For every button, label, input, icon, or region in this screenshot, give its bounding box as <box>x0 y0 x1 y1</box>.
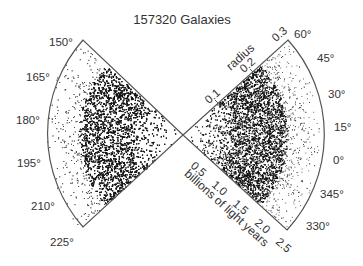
angle-30: 30° <box>328 88 345 100</box>
angle-0: 0° <box>333 154 344 166</box>
angle-210: 210° <box>31 200 55 212</box>
distance-axis: 0.5 1.0 1.5 2.0 2.5 billions of light ye… <box>182 159 294 255</box>
angle-165: 165° <box>26 71 50 83</box>
angle-330: 330° <box>306 220 330 232</box>
distance-tick-2.5: 2.5 <box>274 235 294 255</box>
radius-axis: 0.1 0.2 0.3 radius <box>202 24 289 106</box>
angle-225: 225° <box>50 236 74 248</box>
angle-60: 60° <box>294 28 311 40</box>
galaxy-wedge-chart: 157320 Galaxies 0.1 0.2 0.3 radius 0.5 1… <box>0 0 363 266</box>
chart-title: 157320 Galaxies <box>133 12 231 27</box>
angle-180: 180° <box>16 114 40 126</box>
left-wedge-outline <box>48 40 183 227</box>
angle-labels-left: 150° 165° 180° 195° 210° 225° <box>16 36 74 248</box>
angle-195: 195° <box>17 157 41 169</box>
angle-150: 150° <box>49 36 73 48</box>
galaxy-points <box>47 46 319 227</box>
angle-45: 45° <box>317 52 334 64</box>
angle-345: 345° <box>320 188 344 200</box>
angle-15: 15° <box>334 121 351 133</box>
